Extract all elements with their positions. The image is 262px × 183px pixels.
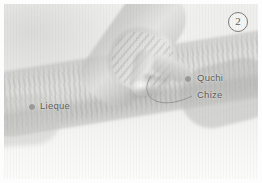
- photograph-plate: Quchi Chize Lieque 2: [4, 4, 258, 179]
- acupoint-figure: Quchi Chize Lieque 2: [0, 0, 262, 183]
- acupoint-marker-quchi: [185, 76, 191, 82]
- acupoint-marker-lieque: [29, 104, 35, 110]
- figure-number-badge: 2: [228, 12, 248, 32]
- acupoint-label-lieque: Lieque: [40, 100, 70, 111]
- acupoint-label-quchi: Quchi: [197, 72, 223, 83]
- acupoint-label-chize: Chize: [197, 89, 223, 100]
